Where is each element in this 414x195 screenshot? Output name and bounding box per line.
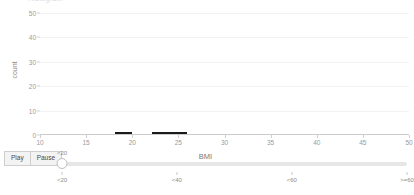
y-tick-label: 50 <box>29 9 36 16</box>
slider-tick-mark <box>407 172 408 175</box>
gridline <box>40 62 409 63</box>
y-axis-label: count <box>11 61 18 78</box>
y-tick-mark <box>37 110 40 111</box>
slider-handle[interactable] <box>57 158 68 169</box>
y-tick-label: 0 <box>32 132 36 139</box>
x-tick-mark <box>40 135 41 138</box>
histogram-chart: count 01020304050 101520253035404550 BMI <box>0 0 411 140</box>
gridline <box>40 37 409 38</box>
slider-value-label: <20 <box>57 150 67 156</box>
x-tick-label: 25 <box>175 139 182 146</box>
animation-controls: Play Pause <20 <20<40<60>=60 <box>0 148 411 195</box>
y-tick-mark <box>37 37 40 38</box>
y-tick-label: 40 <box>29 34 36 41</box>
x-tick-label: 45 <box>359 139 366 146</box>
x-tick-mark <box>86 135 87 138</box>
play-button[interactable]: Play <box>4 151 31 166</box>
slider-tick-mark <box>176 172 177 175</box>
x-tick-label: 50 <box>405 139 412 146</box>
x-tick-label: 20 <box>129 139 136 146</box>
slider-tick-mark <box>291 172 292 175</box>
y-tick-label: 20 <box>29 83 36 90</box>
y-tick-label: 30 <box>29 58 36 65</box>
bmi-range-slider[interactable]: <20 <20<40<60>=60 <box>62 159 407 169</box>
plot-area: 01020304050 101520253035404550 <box>40 8 409 135</box>
y-tick-mark <box>37 86 40 87</box>
x-tick-label: 40 <box>313 139 320 146</box>
gridline <box>40 13 409 14</box>
x-tick-mark <box>317 135 318 138</box>
y-tick-label: 10 <box>29 107 36 114</box>
slider-tick-label: <40 <box>172 177 182 183</box>
gridline <box>40 86 409 87</box>
slider-tick-mark <box>62 172 63 175</box>
x-tick-mark <box>178 135 179 138</box>
slider-tick-label: <20 <box>57 177 67 183</box>
x-tick-label: 15 <box>83 139 90 146</box>
gridline <box>40 111 409 112</box>
x-tick-label: 10 <box>36 139 43 146</box>
x-tick-label: 30 <box>221 139 228 146</box>
y-tick-mark <box>37 12 40 13</box>
x-tick-mark <box>409 135 410 138</box>
playback-button-group: Play Pause <box>4 151 62 166</box>
x-tick-mark <box>271 135 272 138</box>
slider-track[interactable] <box>62 162 407 166</box>
slider-tick-label: <60 <box>287 177 297 183</box>
x-tick-mark <box>225 135 226 138</box>
x-tick-mark <box>132 135 133 138</box>
slider-tick-label: >=60 <box>400 177 414 183</box>
x-tick-label: 35 <box>267 139 274 146</box>
y-tick-mark <box>37 61 40 62</box>
x-tick-mark <box>363 135 364 138</box>
